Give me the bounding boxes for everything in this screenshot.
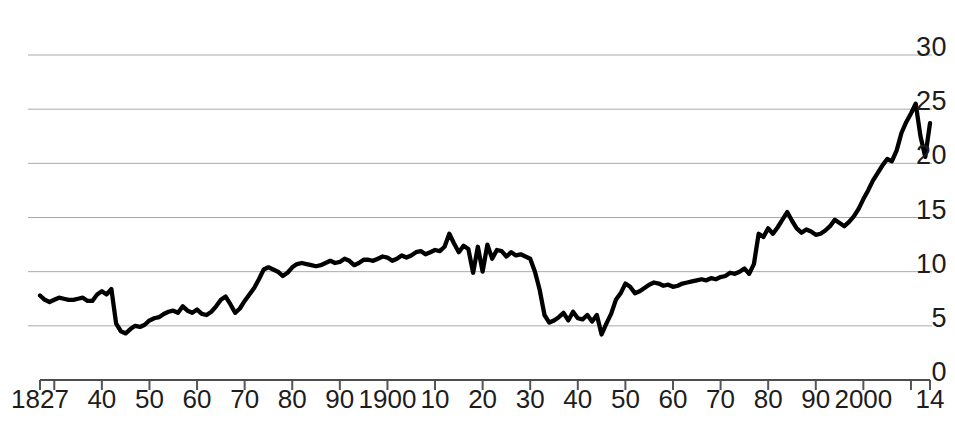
x-axis-tick-label: 80 [754,386,783,412]
x-axis-tick-label: 70 [230,386,259,412]
x-axis-tick-label: 2000 [834,386,892,412]
x-axis-tick-label: 30 [516,386,545,412]
x-axis-tick-label: 50 [611,386,640,412]
x-axis-tick-label: 50 [135,386,164,412]
x-axis-tick-label: 90 [325,386,354,412]
x-axis-tick-label: 60 [183,386,212,412]
y-axis-tick-label: 15 [901,197,947,224]
y-axis-tick-label: 30 [901,34,947,61]
gridlines-group [28,55,932,326]
line-chart: 051015202530 182740506070809019001020304… [0,0,955,447]
x-axis-tick-label: 80 [278,386,307,412]
y-axis-tick-label: 0 [901,359,947,386]
y-axis-tick-label: 5 [901,305,947,332]
x-axis-tick-label: 70 [706,386,735,412]
x-axis-tick-label: 10 [421,386,450,412]
x-axis-tick-label: 90 [801,386,830,412]
x-axis-tick-label: 60 [659,386,688,412]
x-axis-tick-label: 14 [916,386,945,412]
y-axis-tick-label: 25 [901,88,947,115]
y-axis-tick-label: 20 [901,142,947,169]
x-axis-tick-label: 40 [563,386,592,412]
chart-plot-area [0,0,955,447]
x-axis-tick-label: 1827 [11,386,69,412]
faint-artifact-mark [18,432,21,442]
x-axis-tick-label: 40 [87,386,116,412]
x-axis-tick-label: 1900 [359,386,417,412]
x-axis-tick-label: 20 [468,386,497,412]
data-series-line [40,104,930,335]
y-axis-tick-label: 10 [901,251,947,278]
